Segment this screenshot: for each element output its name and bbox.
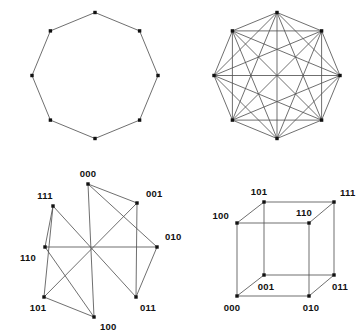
graph-edge bbox=[136, 247, 157, 297]
graph-node bbox=[332, 273, 335, 276]
graph-node bbox=[93, 137, 96, 140]
vertex-label: 100 bbox=[100, 321, 116, 332]
graph-node bbox=[51, 204, 54, 207]
vertex-label: 001 bbox=[258, 281, 275, 292]
panel-cycle-graph-c8 bbox=[30, 11, 159, 140]
graph-edge bbox=[45, 206, 53, 247]
graph-node bbox=[338, 74, 341, 77]
graph-node bbox=[332, 200, 335, 203]
graph-edge bbox=[309, 275, 334, 296]
graph-node bbox=[92, 315, 95, 318]
graph-edge bbox=[95, 13, 140, 31]
graph-edge bbox=[45, 247, 94, 317]
graph-node bbox=[231, 29, 234, 32]
vertex-label: 000 bbox=[224, 302, 240, 313]
graph-node bbox=[212, 74, 215, 77]
graph-node bbox=[156, 74, 159, 77]
graph-edge bbox=[237, 202, 264, 223]
vertex-label: 100 bbox=[213, 210, 229, 221]
vertex-label: 000 bbox=[80, 168, 96, 179]
graph-node bbox=[49, 29, 52, 32]
graph-node bbox=[235, 221, 238, 224]
vertex-label: 110 bbox=[20, 252, 36, 263]
vertex-label: 001 bbox=[146, 188, 163, 199]
graph-node bbox=[262, 273, 265, 276]
graph-node bbox=[134, 295, 137, 298]
node-group bbox=[30, 11, 159, 140]
graph-edge bbox=[50, 120, 95, 138]
graph-edge bbox=[44, 206, 53, 297]
graph-node bbox=[320, 118, 323, 121]
graph-edge bbox=[32, 76, 50, 121]
graph-edge bbox=[140, 31, 158, 76]
graph-node bbox=[275, 137, 278, 140]
graph-node bbox=[307, 294, 310, 297]
figure-sheet: 0000010100111001011101110000010100111001… bbox=[0, 0, 362, 336]
graph-node bbox=[42, 295, 45, 298]
graph-edge bbox=[32, 31, 50, 76]
panel-hypercube-q3-cube-layout: 000001010011100101110111 bbox=[213, 186, 356, 313]
node-group: 000001010011100101110111 bbox=[20, 168, 181, 332]
vertex-label: 111 bbox=[37, 190, 53, 201]
graph-edge bbox=[140, 76, 158, 121]
graph-node bbox=[93, 11, 96, 14]
graph-node bbox=[235, 294, 238, 297]
graph-node bbox=[138, 118, 141, 121]
graph-node bbox=[49, 118, 52, 121]
graph-node bbox=[135, 201, 138, 204]
graph-node bbox=[262, 200, 265, 203]
panel-complete-graph-k8 bbox=[212, 11, 341, 140]
graph-edge bbox=[88, 184, 137, 203]
vertex-label: 010 bbox=[165, 231, 181, 242]
edge-group bbox=[44, 184, 157, 317]
vertex-label: 011 bbox=[140, 302, 156, 313]
vertex-label: 010 bbox=[303, 302, 319, 313]
graph-node bbox=[231, 118, 234, 121]
graph-node bbox=[43, 245, 46, 248]
graph-node bbox=[307, 221, 310, 224]
graph-edge bbox=[50, 13, 95, 31]
graph-edge bbox=[309, 202, 334, 223]
graph-node bbox=[86, 182, 89, 185]
graph-edge bbox=[95, 120, 140, 138]
vertex-label: 011 bbox=[332, 281, 348, 292]
graph-node bbox=[138, 29, 141, 32]
vertex-label: 111 bbox=[340, 187, 356, 198]
graph-edge bbox=[53, 206, 136, 297]
graph-node bbox=[30, 74, 33, 77]
edge-group bbox=[237, 202, 334, 296]
vertex-label: 110 bbox=[296, 207, 312, 218]
vertex-label: 101 bbox=[30, 302, 47, 313]
panel-hypercube-q3-circular-layout: 000001010011100101110111 bbox=[20, 168, 181, 332]
graph-node bbox=[275, 11, 278, 14]
vertex-label: 101 bbox=[251, 186, 268, 197]
graph-figures-svg: 0000010100111001011101110000010100111001… bbox=[0, 0, 362, 336]
graph-edge bbox=[136, 203, 137, 297]
graph-node bbox=[155, 245, 158, 248]
graph-node bbox=[320, 29, 323, 32]
